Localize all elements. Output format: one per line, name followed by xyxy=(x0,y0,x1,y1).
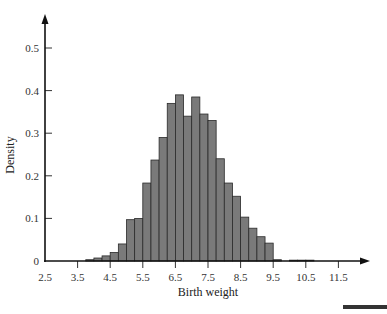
x-tick-label: 9.5 xyxy=(266,271,280,283)
histogram-chart: 00.10.20.30.40.5 2.53.54.55.56.57.58.59.… xyxy=(0,0,387,314)
histogram-bar xyxy=(208,120,216,261)
histogram-bar xyxy=(135,218,143,261)
y-tick-label: 0 xyxy=(34,255,40,267)
y-tick-label: 0.1 xyxy=(25,212,39,224)
x-tick-label: 8.5 xyxy=(234,271,248,283)
x-tick-label: 2.5 xyxy=(38,271,52,283)
y-tick-label: 0.4 xyxy=(25,85,39,97)
histogram-bar xyxy=(232,196,240,261)
histogram-bar xyxy=(175,95,183,261)
y-axis-label: Density xyxy=(3,136,17,173)
histogram-bar xyxy=(127,220,135,261)
y-tick-label: 0.2 xyxy=(25,170,39,182)
x-tick-label: 11.5 xyxy=(329,271,348,283)
y-tick-label: 0.5 xyxy=(25,42,39,54)
x-tick-label: 3.5 xyxy=(71,271,85,283)
x-axis-label: Birth weight xyxy=(178,285,239,299)
x-axis-arrow-icon xyxy=(360,258,370,265)
histogram-bar xyxy=(200,114,208,261)
histogram-bar xyxy=(159,137,167,261)
histogram-bar xyxy=(224,183,232,261)
histogram-bar xyxy=(143,183,151,261)
y-axis-arrow-icon xyxy=(42,14,49,24)
histogram-bar xyxy=(257,237,265,261)
y-axis-ticks: 00.10.20.30.40.5 xyxy=(25,42,52,267)
histogram-bar xyxy=(249,228,257,261)
x-axis-ticks: 2.53.54.55.56.57.58.59.510.511.5 xyxy=(38,261,348,283)
histogram-bar xyxy=(151,160,159,261)
histogram-bar xyxy=(241,217,249,261)
histogram-bar xyxy=(192,97,200,261)
x-tick-label: 4.5 xyxy=(103,271,117,283)
histogram-bar xyxy=(118,244,126,261)
x-tick-label: 5.5 xyxy=(136,271,150,283)
corner-mark xyxy=(343,305,387,309)
histogram-bar xyxy=(110,252,118,261)
y-tick-label: 0.3 xyxy=(25,127,39,139)
x-tick-label: 7.5 xyxy=(201,271,215,283)
histogram-bar xyxy=(265,243,273,261)
x-tick-label: 6.5 xyxy=(169,271,183,283)
histogram-bar xyxy=(216,159,224,261)
histogram-bar xyxy=(184,116,192,261)
histogram-bars xyxy=(86,95,314,261)
histogram-bar xyxy=(167,103,175,261)
x-tick-label: 10.5 xyxy=(296,271,316,283)
